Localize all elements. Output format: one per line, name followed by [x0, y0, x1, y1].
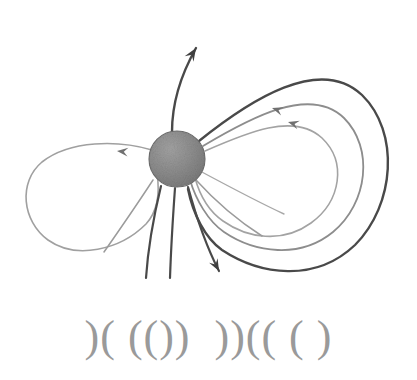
magnetic-field-figure: )( (()) ))(( ( )	[0, 0, 417, 380]
open-line-south-left-a	[146, 186, 161, 278]
closed-loop-inner-right	[195, 126, 338, 237]
open-line-southeast-faint-b	[200, 171, 284, 214]
closed-loop-outer-right	[188, 79, 388, 271]
open-line-south-left-b	[170, 188, 175, 278]
open-line-southeast-faint-a	[196, 180, 262, 236]
arrow-heads-group	[117, 45, 300, 273]
arrow-left-lobe-inflow	[117, 147, 129, 157]
arrow-south-outflow	[209, 258, 223, 273]
open-lobe-left	[26, 144, 158, 251]
field-lines-group	[26, 48, 388, 278]
caption-glyph-row: )( (()) ))(( ( )	[0, 312, 417, 362]
central-body	[149, 131, 205, 187]
open-line-southwest-faint	[104, 180, 153, 252]
arrow-right-loop-outer	[271, 104, 284, 116]
arrow-north-outflow	[185, 45, 201, 62]
polar-open-line-north	[172, 48, 196, 132]
arrow-right-loop-inner	[287, 118, 300, 129]
